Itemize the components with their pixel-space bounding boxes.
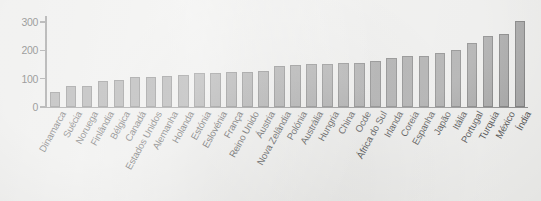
- y-axis-tick-label: 0: [0, 101, 38, 113]
- bar-slot: [47, 14, 63, 107]
- y-axis-tick-label: 100: [0, 73, 38, 85]
- y-axis-tick-labels: 0100200300: [0, 0, 38, 201]
- y-axis-tick: [40, 106, 45, 107]
- x-axis-category-labels: DinamarcaSuéciaNoruegaFinlândiaBélgicaCa…: [47, 109, 528, 201]
- y-axis-tick-label: 300: [0, 16, 38, 28]
- y-axis-tick-label: 200: [0, 44, 38, 56]
- bar-chart-figure: 0100200300 DinamarcaSuéciaNoruegaFinlând…: [0, 0, 541, 201]
- y-axis-tick: [40, 78, 45, 79]
- y-axis-tick: [40, 21, 45, 22]
- y-axis-tick: [40, 50, 45, 51]
- bar: [50, 92, 61, 107]
